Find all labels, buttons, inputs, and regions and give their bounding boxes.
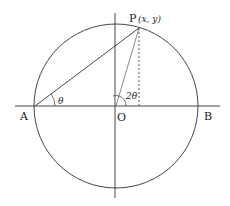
label-P: P <box>129 12 137 25</box>
label-P-coords: (x, y) <box>138 14 161 24</box>
angle-arc-theta <box>51 94 55 106</box>
diagram-canvas: A O B P (x, y) θ 2θ <box>0 0 230 206</box>
label-A: A <box>19 110 29 123</box>
segment-AP <box>35 28 139 106</box>
label-O: O <box>117 111 126 124</box>
label-B: B <box>204 110 212 123</box>
circle-angle-diagram: A O B P (x, y) θ 2θ <box>0 0 230 206</box>
label-two-theta: 2θ <box>125 91 138 101</box>
label-theta: θ <box>58 96 64 106</box>
